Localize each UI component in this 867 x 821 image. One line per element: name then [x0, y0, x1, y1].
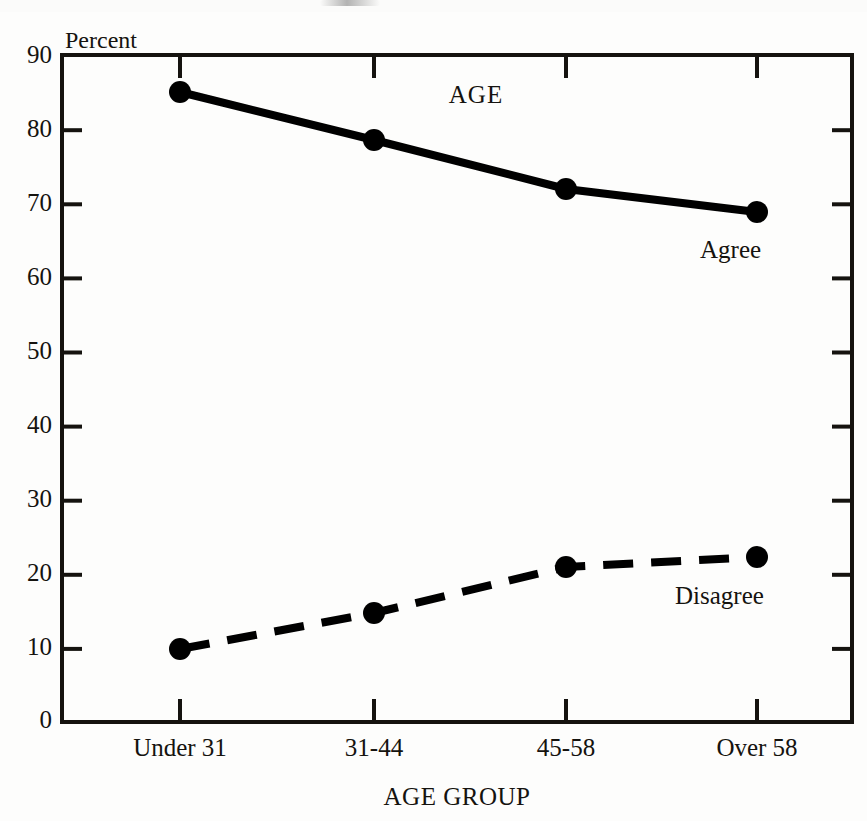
y-tick-label-50: 50: [27, 337, 52, 364]
series-agree: Agree: [169, 81, 768, 263]
x-tick-label-0: Under 31: [133, 734, 227, 761]
line-chart-svg: Percent 90 80 70: [0, 0, 867, 821]
y-tick-label-0: 0: [40, 706, 53, 733]
x-axis-ticks-top: [180, 55, 757, 78]
y-tick-label-90: 90: [27, 41, 52, 68]
age-group-annotation: AGE: [449, 81, 503, 108]
y-axis-ticks-left: [62, 130, 82, 649]
disagree-point-3: [746, 546, 768, 568]
agree-point-0: [169, 81, 191, 103]
x-axis-title: AGE GROUP: [384, 783, 531, 810]
agree-line: [180, 92, 757, 212]
x-tick-label-1: 31-44: [345, 734, 404, 761]
x-axis-ticks-bottom: [180, 699, 757, 722]
disagree-point-1: [363, 602, 385, 624]
disagree-point-0: [169, 638, 191, 660]
chart-figure: Percent 90 80 70: [0, 0, 867, 821]
plot-frame: [62, 55, 852, 722]
agree-series-label: Agree: [700, 236, 761, 263]
series-disagree: Disagree: [169, 546, 768, 660]
y-tick-label-30: 30: [27, 485, 52, 512]
disagree-series-label: Disagree: [675, 582, 764, 609]
y-tick-label-20: 20: [27, 559, 52, 586]
y-tick-label-40: 40: [27, 411, 52, 438]
y-tick-label-70: 70: [27, 189, 52, 216]
agree-point-1: [363, 129, 385, 151]
disagree-point-2: [555, 556, 577, 578]
agree-point-3: [746, 201, 768, 223]
x-tick-label-3: Over 58: [716, 734, 797, 761]
y-tick-label-10: 10: [27, 633, 52, 660]
y-axis-tick-labels: 90 80 70 60 50 40 30 20 10 0: [27, 41, 52, 733]
x-axis-tick-labels: Under 31 31-44 45-58 Over 58: [133, 734, 797, 761]
y-tick-label-80: 80: [27, 115, 52, 142]
disagree-line: [180, 557, 757, 649]
agree-point-2: [555, 178, 577, 200]
x-tick-label-2: 45-58: [537, 734, 595, 761]
y-axis-ticks-right: [832, 130, 852, 649]
y-axis-caption: Percent: [65, 27, 137, 53]
y-tick-label-60: 60: [27, 263, 52, 290]
